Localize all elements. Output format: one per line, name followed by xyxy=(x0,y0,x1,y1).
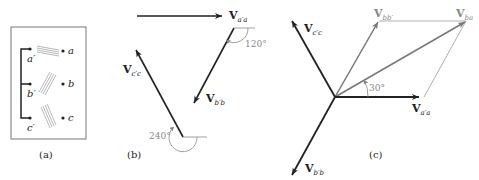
label-b-vaa: Va′a xyxy=(229,10,247,24)
label-c-vcc: Vc′c xyxy=(304,23,322,37)
angle-240-label: 240° xyxy=(149,132,171,141)
terminal-b-label: b xyxy=(68,79,74,89)
label-c-vbb: Vb′b xyxy=(305,163,324,177)
caption-a: (a) xyxy=(39,150,53,160)
label-b-vcc: Vc′c xyxy=(123,64,141,78)
label-c-vaa: Va′a xyxy=(412,103,430,117)
angle-120-label: 120° xyxy=(245,40,267,49)
caption-c: (c) xyxy=(369,150,382,160)
terminal-c-prime-label: c′ xyxy=(27,123,35,133)
phasor-diagram-canvas xyxy=(0,0,479,180)
terminal-b-prime-label: b′ xyxy=(27,89,36,99)
label-c-vba: Vba xyxy=(456,8,473,22)
caption-b: (b) xyxy=(127,150,141,160)
label-b-vbb: Vb′b xyxy=(206,93,225,107)
angle-30-label: 30° xyxy=(369,84,385,93)
panel-a-schematic xyxy=(11,27,86,139)
label-c-vbb-prime: Vbb′ xyxy=(374,8,393,22)
terminal-c-label: c xyxy=(68,113,74,123)
terminal-a-label: a xyxy=(68,46,74,56)
terminal-a-prime-label: a′ xyxy=(27,54,35,64)
